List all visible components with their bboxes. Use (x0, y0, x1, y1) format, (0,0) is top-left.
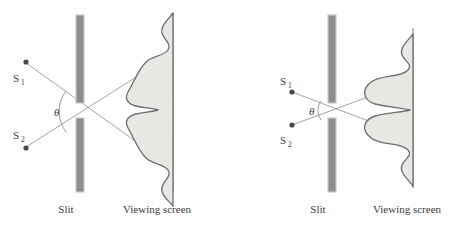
source-dot-s1 (23, 59, 28, 64)
angle-label-theta: θ (309, 105, 315, 117)
source-label-s1: S (13, 72, 19, 84)
source-label-s1-subscript: 1 (288, 81, 292, 90)
source-label-s1-subscript: 1 (21, 78, 25, 87)
barrier-upper-segment (328, 15, 336, 103)
slit-barrier (76, 15, 84, 192)
angle-arc (59, 91, 66, 132)
source-label-s2-subscript: 2 (288, 140, 292, 149)
narrow-separation-panel: S 1 S 2 θ Slit Viewing screen (235, 0, 471, 236)
intensity-curve-left (126, 13, 173, 206)
angle-arc (318, 101, 321, 120)
angle-label-theta: θ (54, 106, 60, 118)
barrier-lower-segment (328, 118, 336, 192)
source-dot-s2 (23, 145, 28, 150)
source-label-s2: S (13, 129, 19, 141)
double-slit-figure: S 1 S 2 θ Slit Viewing screen (0, 0, 471, 236)
slit-barrier (328, 15, 336, 192)
source-label-s1: S (280, 75, 286, 87)
wide-separation-panel: S 1 S 2 θ Slit Viewing screen (0, 0, 236, 236)
source-label-s2-subscript: 2 (21, 135, 25, 144)
narrow-separation-diagram: S 1 S 2 θ Slit Viewing screen (235, 0, 471, 236)
caption-viewing-screen: Viewing screen (123, 203, 192, 215)
barrier-lower-segment (76, 118, 84, 192)
source-label-s2: S (280, 134, 286, 146)
caption-viewing-screen: Viewing screen (373, 203, 442, 215)
source-dot-s1 (289, 89, 294, 94)
intensity-curve-right (365, 34, 413, 186)
caption-slit: Slit (310, 203, 325, 215)
source-dot-s2 (289, 122, 294, 127)
barrier-upper-segment (76, 15, 84, 103)
caption-slit: Slit (58, 203, 73, 215)
wide-separation-diagram: S 1 S 2 θ Slit Viewing screen (0, 0, 236, 236)
